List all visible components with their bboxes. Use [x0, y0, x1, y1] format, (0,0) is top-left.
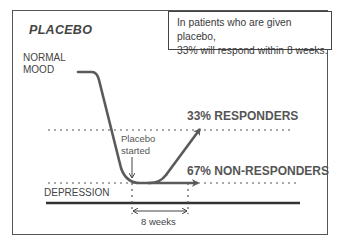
diagram-graphics	[0, 0, 343, 247]
mood-curve	[78, 72, 166, 183]
responders-arrow	[166, 129, 200, 175]
